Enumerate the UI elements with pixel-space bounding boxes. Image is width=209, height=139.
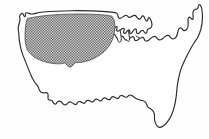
lake-huron-shore <box>127 31 130 42</box>
lake-michigan-shore <box>117 30 121 42</box>
us-map-figure <box>0 0 209 139</box>
map-svg <box>0 0 209 139</box>
